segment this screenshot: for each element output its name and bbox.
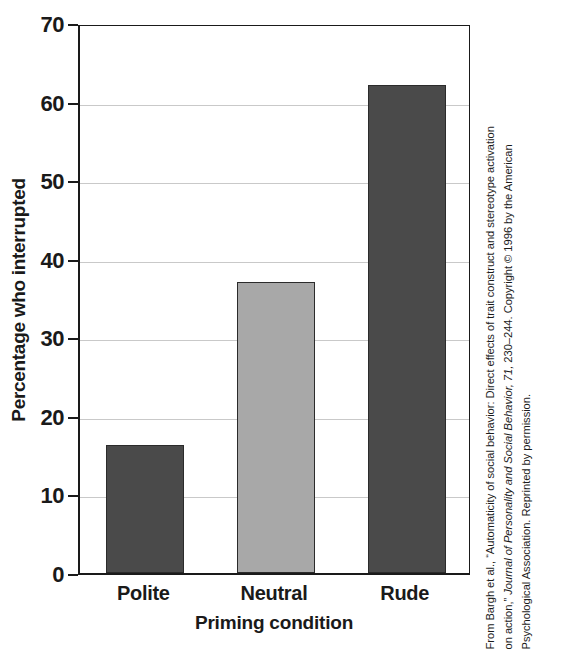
- y-tick-label: 10: [0, 484, 64, 508]
- caption-line-3: Psychological Association. Reprinted by …: [517, 393, 535, 649]
- bar-rude: [368, 85, 446, 573]
- y-tick-label: 60: [0, 92, 64, 116]
- y-axis-title-label: Percentage who interrupted: [8, 178, 30, 421]
- plot-area: [78, 25, 470, 575]
- bar-neutral: [237, 282, 315, 574]
- y-tick-mark: [68, 181, 78, 183]
- y-tick-mark: [68, 338, 78, 340]
- y-tick-mark: [68, 574, 78, 576]
- x-axis-title: Priming condition: [78, 612, 470, 634]
- caption-line-1: From Bargh et al., “Automaticity of soci…: [481, 126, 499, 649]
- y-tick-mark: [68, 260, 78, 262]
- y-tick-mark: [68, 103, 78, 105]
- source-caption: From Bargh et al., “Automaticity of soci…: [481, 0, 573, 649]
- y-tick-label: 30: [0, 327, 64, 351]
- y-tick-label: 50: [0, 170, 64, 194]
- y-tick-mark: [68, 495, 78, 497]
- y-tick-mark: [68, 417, 78, 419]
- x-tick-label-polite: Polite: [78, 580, 209, 606]
- caption-line-2-pre: on action,”: [502, 594, 514, 649]
- caption-line-2: on action,” Journal of Personality and S…: [499, 144, 517, 649]
- y-tick-label: 0: [0, 563, 64, 587]
- y-tick-mark: [68, 24, 78, 26]
- x-tick-label-rude: Rude: [339, 580, 470, 606]
- caption-line-2-post: 230–244. Copyright © 1996 by the America…: [502, 144, 514, 365]
- caption-line-2-journal: Journal of Personality and Social Behavi…: [502, 365, 514, 594]
- y-tick-label: 20: [0, 406, 64, 430]
- y-tick-label: 70: [0, 13, 64, 37]
- x-tick-label-neutral: Neutral: [209, 580, 340, 606]
- y-tick-label: 40: [0, 249, 64, 273]
- bar-polite: [106, 445, 184, 573]
- bar-chart-figure: Percentage who interrupted 7060504030201…: [0, 0, 573, 649]
